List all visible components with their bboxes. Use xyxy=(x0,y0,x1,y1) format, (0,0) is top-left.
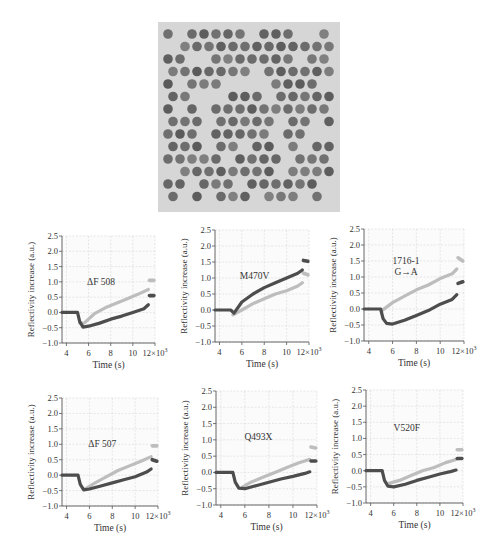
chart-annotation: M470V xyxy=(240,271,270,281)
y-tick-label: 1.0 xyxy=(349,272,360,282)
y-tick-label: −1.0 xyxy=(43,501,58,511)
x-axis-label: Time (s) xyxy=(398,358,430,369)
y-tick-label: 0.0 xyxy=(351,466,362,476)
x-tick-label: 12×103 xyxy=(297,346,322,357)
y-tick-label: 0.0 xyxy=(47,307,58,317)
y-tick-label: 1.0 xyxy=(201,435,212,445)
y-tick-label: −0.5 xyxy=(43,486,58,496)
y-tick-label: −1.0 xyxy=(197,500,212,510)
x-tick-label: 8 xyxy=(267,510,271,520)
data-series-end xyxy=(152,460,157,462)
y-tick-label: −1.0 xyxy=(345,336,360,346)
x-axis-label: Time (s) xyxy=(250,522,282,533)
y-tick-label: 0.0 xyxy=(201,467,212,477)
chart-grid: 2.52.01.51.00.50.0−0.5−1.04681012×103ΔF … xyxy=(0,0,500,557)
y-axis-label: Reflectivity increase (a.u.) xyxy=(26,242,36,337)
x-axis-label: Time (s) xyxy=(92,360,124,371)
y-tick-label: 0.5 xyxy=(47,455,58,465)
chart-annotation: ΔF 507 xyxy=(88,439,116,449)
data-series-end xyxy=(303,273,307,275)
y-tick-label: 1.5 xyxy=(47,262,58,272)
x-tick-label: 10 xyxy=(289,510,298,520)
y-tick-label: 2.0 xyxy=(349,240,360,250)
y-axis-label: Reflectivity increase (a.u.) xyxy=(179,238,189,333)
chart-panel: 2.52.01.51.00.50.0−0.5−1.04681012×103V52… xyxy=(330,385,475,531)
x-axis-label: Time (s) xyxy=(94,523,126,534)
y-tick-label: 1.5 xyxy=(201,419,212,429)
chart-panel: 2.52.01.51.00.50.0−0.5−1.04681012×103M47… xyxy=(179,225,321,370)
x-tick-label: 8 xyxy=(415,508,419,518)
x-tick-label: 6 xyxy=(390,346,394,356)
chart-panel: 2.52.01.51.00.50.0−0.5−1.04681012×103ΔF … xyxy=(26,231,167,371)
y-tick-label: −1.0 xyxy=(196,337,211,347)
y-tick-label: 0.5 xyxy=(351,450,362,460)
x-tick-label: 8 xyxy=(110,511,114,521)
y-tick-label: 1.0 xyxy=(47,277,58,287)
x-tick-label: 6 xyxy=(240,347,244,357)
y-tick-label: 1.5 xyxy=(351,417,362,427)
y-tick-label: −0.5 xyxy=(345,320,360,330)
x-tick-label: 10 xyxy=(129,348,138,358)
y-tick-label: 1.0 xyxy=(200,273,211,283)
x-tick-label: 4 xyxy=(219,510,224,520)
y-tick-label: 2.0 xyxy=(351,401,362,411)
y-axis-label: Reflectivity increase (a.u.) xyxy=(26,404,36,499)
y-tick-label: 1.5 xyxy=(47,424,58,434)
chart-annotation: ΔF 508 xyxy=(87,277,115,287)
x-tick-label: 12×103 xyxy=(146,510,171,521)
chart-annotation: V520F xyxy=(394,423,420,433)
x-tick-label: 4 xyxy=(367,346,372,356)
y-tick-label: 2.0 xyxy=(201,402,212,412)
chart-annotation: Q493X xyxy=(244,432,272,442)
y-tick-label: −0.5 xyxy=(347,482,362,492)
x-tick-label: 8 xyxy=(109,348,113,358)
y-tick-label: 2.5 xyxy=(201,386,212,396)
x-tick-label: 12×103 xyxy=(451,507,476,518)
x-tick-label: 6 xyxy=(86,348,90,358)
chart-panel: 2.52.01.51.00.50.0−0.5−1.04681012×103171… xyxy=(328,224,476,369)
x-tick-label: 10 xyxy=(436,508,445,518)
x-tick-label: 8 xyxy=(262,347,266,357)
x-tick-label: 12×103 xyxy=(452,345,477,356)
y-tick-label: 2.0 xyxy=(47,408,58,418)
x-tick-label: 10 xyxy=(282,347,291,357)
y-tick-label: 2.0 xyxy=(200,241,211,251)
x-tick-label: 12×103 xyxy=(143,347,168,358)
y-tick-label: −1.0 xyxy=(43,338,58,348)
y-tick-label: −0.5 xyxy=(197,484,212,494)
x-tick-label: 6 xyxy=(243,510,247,520)
y-tick-label: 2.5 xyxy=(47,231,58,241)
y-tick-label: 2.5 xyxy=(349,224,360,234)
y-tick-label: −1.0 xyxy=(347,498,362,508)
chart-panel: 2.52.01.51.00.50.0−0.5−1.04681012×103ΔF … xyxy=(26,393,170,534)
x-tick-label: 4 xyxy=(64,511,69,521)
y-tick-label: 2.5 xyxy=(200,225,211,235)
x-axis-label: Time (s) xyxy=(246,359,278,370)
data-series-end xyxy=(303,260,307,261)
y-tick-label: 0.5 xyxy=(47,292,58,302)
data-series-end xyxy=(458,282,463,284)
y-tick-label: 0.5 xyxy=(200,289,211,299)
x-tick-label: 10 xyxy=(436,346,445,356)
y-tick-label: 1.0 xyxy=(351,433,362,443)
chart-annotation: 1716-1 xyxy=(393,256,420,266)
y-tick-label: −0.5 xyxy=(43,323,58,333)
y-tick-label: 1.0 xyxy=(47,439,58,449)
y-tick-label: 0.5 xyxy=(201,451,212,461)
x-tick-label: 4 xyxy=(368,508,373,518)
x-tick-label: 4 xyxy=(64,348,69,358)
y-axis-label: Reflectivity increase (a.u.) xyxy=(330,399,340,494)
x-tick-label: 12×103 xyxy=(305,509,330,520)
y-tick-label: 2.5 xyxy=(47,393,58,403)
y-tick-label: 0.0 xyxy=(47,470,58,480)
y-axis-label: Reflectivity increase (a.u.) xyxy=(180,400,190,495)
y-tick-label: 2.5 xyxy=(351,385,362,395)
data-series-end xyxy=(311,447,316,448)
y-tick-label: 0.0 xyxy=(200,305,211,315)
x-axis-label: Time (s) xyxy=(398,520,430,531)
x-tick-label: 6 xyxy=(392,508,396,518)
y-tick-label: 2.0 xyxy=(47,246,58,256)
y-tick-label: 1.5 xyxy=(349,256,360,266)
y-tick-label: 0.5 xyxy=(349,288,360,298)
y-tick-label: −0.5 xyxy=(196,321,211,331)
